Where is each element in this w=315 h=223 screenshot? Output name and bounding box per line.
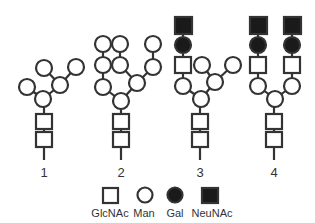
legend-label-neunac: NeuNAc <box>192 207 233 219</box>
structure-label-1: 1 <box>40 165 47 180</box>
glycan-structure-1 <box>19 59 84 160</box>
glycan-structure-2 <box>95 36 161 160</box>
glcnac-square <box>113 132 129 147</box>
man-circle <box>68 59 84 75</box>
legend-glcnac-square-icon <box>103 188 118 203</box>
glcnac-square <box>250 57 266 73</box>
legend-gal-circle-icon <box>168 188 183 203</box>
gal-circle <box>250 37 266 53</box>
structure-label-3: 3 <box>196 165 203 180</box>
structure-label-4: 4 <box>270 165 277 180</box>
man-circle <box>284 78 300 94</box>
man-circle <box>207 74 223 90</box>
gal-circle <box>175 37 191 53</box>
legend-label-man: Man <box>133 207 154 219</box>
gal-circle <box>284 37 300 53</box>
man-circle <box>267 91 283 107</box>
glcnac-square <box>266 114 282 129</box>
man-circle <box>95 57 111 73</box>
glcnac-square <box>175 57 191 73</box>
glcnac-square <box>113 114 129 129</box>
legend-man-circle-icon <box>138 188 153 203</box>
man-circle <box>145 59 161 75</box>
glcnac-square <box>36 132 52 147</box>
man-circle <box>36 60 52 76</box>
glcnac-square <box>192 114 208 129</box>
man-circle <box>225 57 241 73</box>
glcnac-square <box>266 132 282 147</box>
man-circle <box>112 36 128 52</box>
glcnac-square <box>284 57 300 73</box>
man-circle <box>145 36 161 52</box>
man-circle <box>113 93 129 109</box>
glycan-structure-4 <box>250 17 301 160</box>
glycan-structures-figure: 1 2 3 4 GlcNAc Man Gal NeuNAc <box>0 0 315 223</box>
man-circle <box>19 79 35 95</box>
legend <box>103 188 218 204</box>
glcnac-square <box>36 114 52 129</box>
legend-label-glcnac: GlcNAc <box>91 207 129 219</box>
man-circle <box>95 36 111 52</box>
legend-neunac-square-icon <box>202 188 218 203</box>
man-circle <box>95 79 111 95</box>
legend-label-gal: Gal <box>166 207 183 219</box>
man-circle <box>35 91 51 107</box>
man-circle <box>194 57 210 73</box>
neunac-square <box>175 17 192 34</box>
man-circle <box>112 57 128 73</box>
man-circle <box>129 75 145 91</box>
neunac-square <box>284 17 301 34</box>
man-circle <box>193 91 209 107</box>
man-circle <box>175 78 191 94</box>
glcnac-square <box>192 132 208 147</box>
neunac-square <box>250 17 267 34</box>
man-circle <box>52 77 68 93</box>
glycan-structure-3 <box>175 17 241 160</box>
structure-label-2: 2 <box>117 165 124 180</box>
man-circle <box>250 78 266 94</box>
